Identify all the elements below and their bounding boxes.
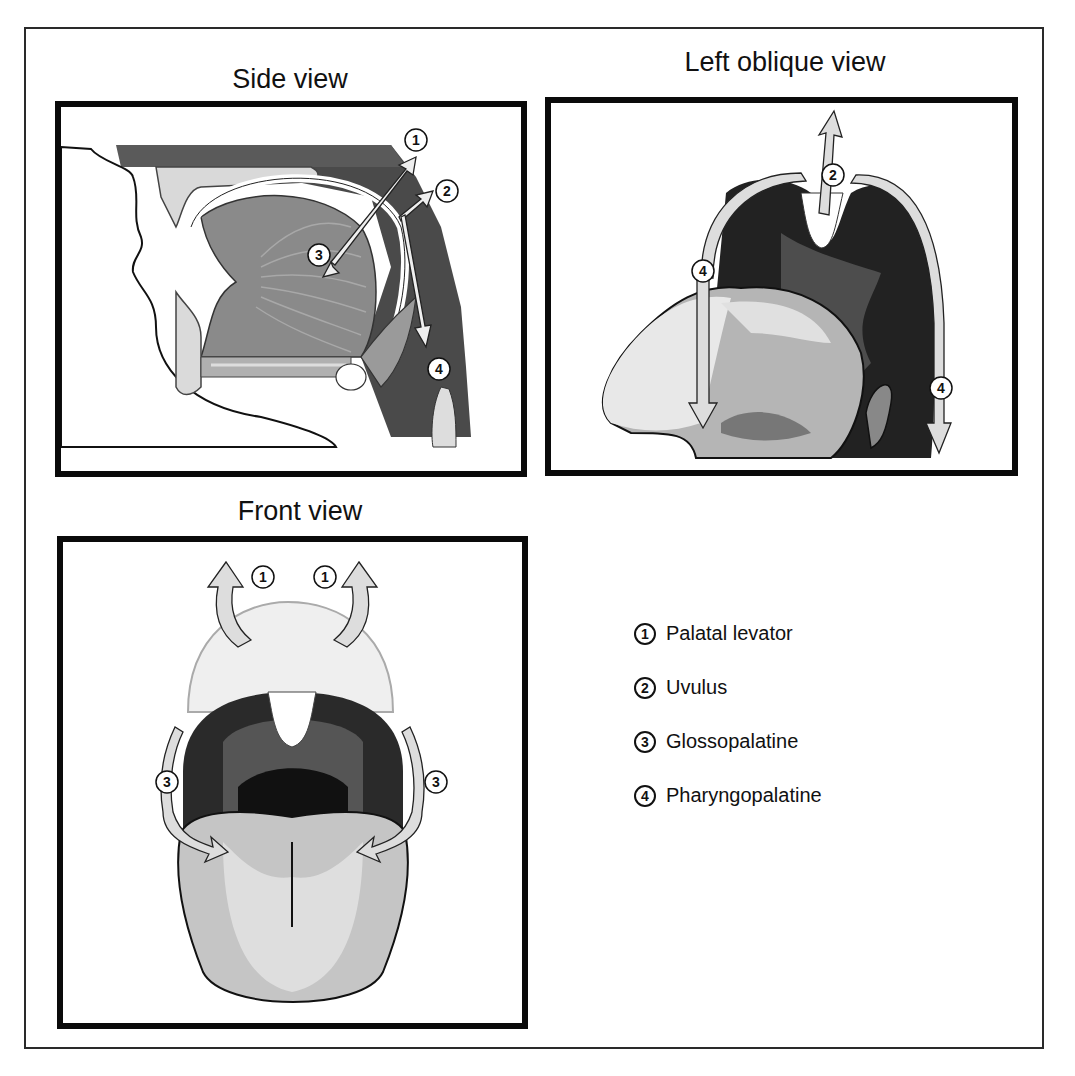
oblique-view-title: Left oblique view	[625, 47, 945, 78]
legend: 1 Palatal levator 2 Uvulus 3 Glossopalat…	[634, 620, 822, 836]
side-view-title: Side view	[190, 64, 390, 95]
marker-3: 3	[163, 774, 171, 790]
marker-4: 4	[435, 361, 443, 377]
marker-4: 4	[937, 380, 945, 396]
oblique-view-illustration: 2 4 4	[551, 103, 1012, 470]
marker-1: 1	[321, 569, 329, 585]
legend-label: Uvulus	[666, 676, 727, 699]
legend-item-glossopalatine: 3 Glossopalatine	[634, 728, 822, 755]
legend-number-badge: 1	[634, 623, 656, 645]
legend-item-pharyngopalatine: 4 Pharyngopalatine	[634, 782, 822, 809]
legend-label: Pharyngopalatine	[666, 784, 822, 807]
marker-2: 2	[443, 183, 451, 199]
legend-item-uvulus: 2 Uvulus	[634, 674, 822, 701]
legend-item-palatal-levator: 1 Palatal levator	[634, 620, 822, 647]
marker-3: 3	[315, 247, 323, 263]
side-view-illustration: 1 2 3 4	[61, 107, 521, 471]
legend-number-badge: 4	[634, 785, 656, 807]
front-view-illustration: 1 1 3 3	[63, 542, 522, 1023]
marker-1: 1	[412, 132, 420, 148]
front-view-title: Front view	[200, 496, 400, 527]
oblique-view-panel: 2 4 4	[545, 97, 1018, 476]
legend-label: Palatal levator	[666, 622, 793, 645]
legend-label: Glossopalatine	[666, 730, 798, 753]
front-view-panel: 1 1 3 3	[57, 536, 528, 1029]
marker-2: 2	[829, 167, 837, 183]
legend-number-badge: 3	[634, 731, 656, 753]
marker-4: 4	[699, 263, 707, 279]
marker-3: 3	[432, 774, 440, 790]
marker-1: 1	[259, 569, 267, 585]
legend-number-badge: 2	[634, 677, 656, 699]
side-view-panel: 1 2 3 4	[55, 101, 527, 477]
